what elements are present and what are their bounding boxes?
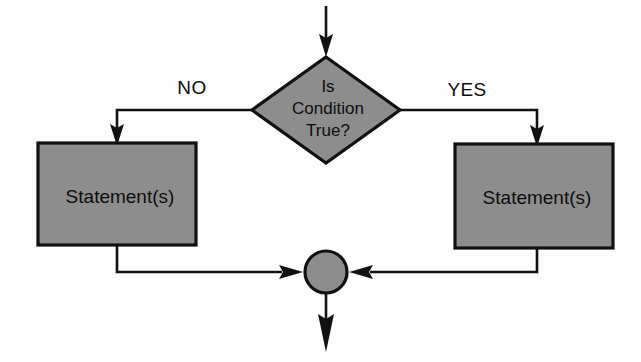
statement-left-label: Statement(s) — [66, 186, 175, 207]
statement-box-left[interactable]: Statement(s) — [38, 143, 196, 245]
branch-label-yes: YES — [447, 79, 486, 100]
no-branch-connector — [110, 110, 252, 146]
merge-connector[interactable] — [305, 251, 347, 293]
right-merge-connector — [349, 248, 537, 279]
yes-branch-connector — [400, 110, 544, 147]
statement-box-right[interactable]: Statement(s) — [455, 144, 613, 248]
left-merge-connector — [117, 245, 303, 279]
flowchart-canvas: Is Condition True? NO YES Statement(s) S… — [0, 0, 641, 362]
statement-right-label: Statement(s) — [483, 187, 592, 208]
entry-arrow-down — [319, 6, 333, 57]
exit-arrow-down — [318, 293, 334, 352]
branch-label-no: NO — [177, 77, 206, 98]
flowchart-svg: Is Condition True? NO YES Statement(s) S… — [0, 0, 641, 362]
condition-diamond[interactable]: Is Condition True? — [252, 57, 400, 163]
condition-line-1: Is — [321, 77, 334, 96]
condition-line-3: True? — [306, 121, 350, 140]
condition-line-2: Condition — [292, 99, 364, 118]
